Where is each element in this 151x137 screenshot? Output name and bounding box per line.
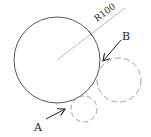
dashed-circle-small [71,96,97,122]
radius-label: R100 [92,1,117,24]
tangent-circles-diagram: R100 B A [0,0,151,137]
label-b: B [122,30,130,43]
arrow-a [46,109,65,119]
label-a: A [33,121,43,134]
dashed-circle-large [97,58,141,102]
